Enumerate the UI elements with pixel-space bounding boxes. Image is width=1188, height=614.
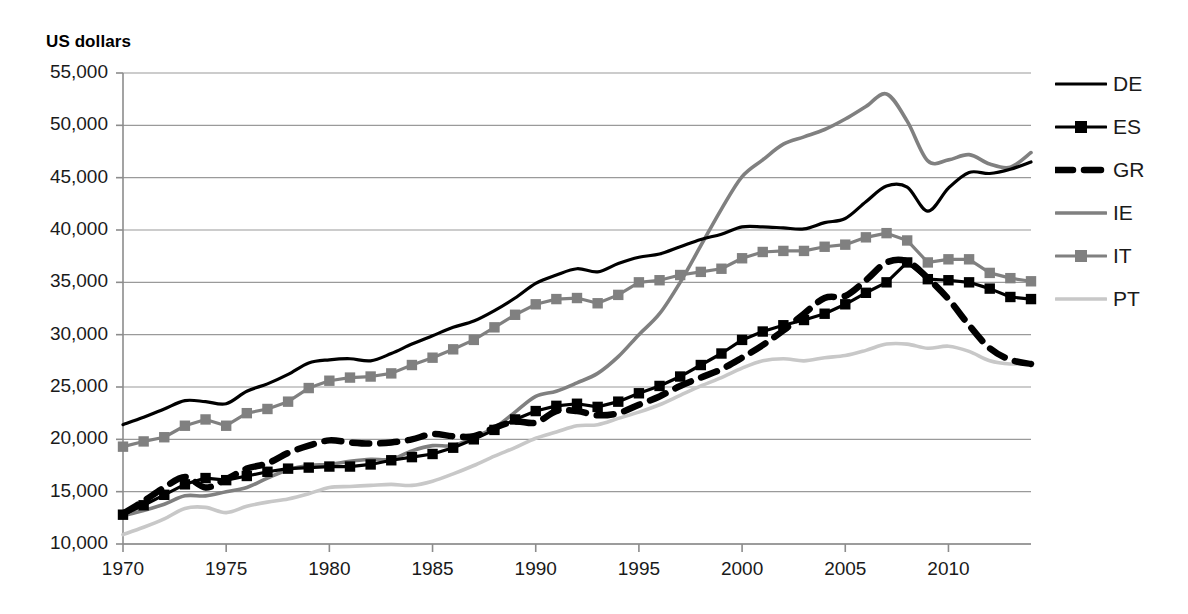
marker-it bbox=[840, 239, 850, 249]
marker-es bbox=[365, 459, 375, 469]
marker-it bbox=[613, 290, 623, 300]
marker-es bbox=[304, 462, 314, 472]
marker-es bbox=[531, 406, 541, 416]
marker-es bbox=[840, 299, 850, 309]
marker-es bbox=[737, 335, 747, 345]
marker-es bbox=[427, 449, 437, 459]
marker-es bbox=[716, 348, 726, 358]
y-tick-label: 10,000 bbox=[18, 532, 108, 554]
marker-es bbox=[758, 326, 768, 336]
marker-it bbox=[489, 322, 499, 332]
legend-item-it[interactable]: IT bbox=[1055, 234, 1185, 277]
y-tick-label: 20,000 bbox=[18, 427, 108, 449]
marker-it bbox=[985, 268, 995, 278]
marker-it bbox=[510, 310, 520, 320]
legend-item-pt[interactable]: PT bbox=[1055, 277, 1185, 320]
y-tick-label: 35,000 bbox=[18, 270, 108, 292]
legend-label-ie: IE bbox=[1113, 202, 1133, 223]
marker-es bbox=[1005, 292, 1015, 302]
marker-es bbox=[964, 277, 974, 287]
marker-es bbox=[654, 381, 664, 391]
y-tick-label: 15,000 bbox=[18, 480, 108, 502]
x-tick-label: 2010 bbox=[908, 558, 988, 580]
x-tick-label: 1975 bbox=[186, 558, 266, 580]
marker-es bbox=[861, 288, 871, 298]
marker-it bbox=[118, 441, 128, 451]
marker-it bbox=[427, 352, 437, 362]
marker-it bbox=[1026, 276, 1036, 286]
marker-it bbox=[551, 294, 561, 304]
marker-es bbox=[943, 275, 953, 285]
legend-swatch-pt bbox=[1055, 289, 1107, 309]
marker-it bbox=[902, 235, 912, 245]
marker-it bbox=[923, 257, 933, 267]
marker-it bbox=[675, 270, 685, 280]
marker-it bbox=[531, 299, 541, 309]
legend-item-es[interactable]: ES bbox=[1055, 105, 1185, 148]
marker-es bbox=[881, 277, 891, 287]
marker-it bbox=[365, 371, 375, 381]
legend-swatch-es bbox=[1055, 117, 1107, 137]
marker-it bbox=[592, 298, 602, 308]
marker-it bbox=[469, 335, 479, 345]
marker-it bbox=[221, 421, 231, 431]
plot-area bbox=[0, 0, 1188, 614]
marker-it bbox=[758, 247, 768, 257]
marker-it bbox=[180, 421, 190, 431]
marker-it bbox=[1005, 273, 1015, 283]
marker-es bbox=[1026, 294, 1036, 304]
marker-es bbox=[200, 473, 210, 483]
legend-swatch-ie bbox=[1055, 203, 1107, 223]
marker-it bbox=[654, 275, 664, 285]
y-tick-label: 50,000 bbox=[18, 113, 108, 135]
y-tick-label: 25,000 bbox=[18, 375, 108, 397]
x-tick-label: 1990 bbox=[496, 558, 576, 580]
marker-it bbox=[386, 368, 396, 378]
marker-es bbox=[819, 309, 829, 319]
marker-es bbox=[324, 461, 334, 471]
marker-es bbox=[242, 471, 252, 481]
marker-it bbox=[345, 372, 355, 382]
x-tick-label: 2000 bbox=[702, 558, 782, 580]
marker-es bbox=[283, 463, 293, 473]
series-line-ie bbox=[123, 94, 1031, 516]
marker-it bbox=[324, 376, 334, 386]
marker-it bbox=[448, 344, 458, 354]
marker-es bbox=[262, 467, 272, 477]
marker-it bbox=[242, 408, 252, 418]
marker-it bbox=[737, 253, 747, 263]
marker-it bbox=[262, 404, 272, 414]
marker-it bbox=[634, 277, 644, 287]
y-tick-label: 40,000 bbox=[18, 218, 108, 240]
legend-label-de: DE bbox=[1113, 73, 1142, 94]
legend-label-it: IT bbox=[1113, 245, 1132, 266]
marker-es bbox=[386, 455, 396, 465]
marker-it bbox=[881, 228, 891, 238]
legend-item-ie[interactable]: IE bbox=[1055, 191, 1185, 234]
legend-item-de[interactable]: DE bbox=[1055, 62, 1185, 105]
marker-it bbox=[778, 246, 788, 256]
marker-es bbox=[634, 388, 644, 398]
marker-it bbox=[138, 436, 148, 446]
x-tick-label: 2005 bbox=[805, 558, 885, 580]
marker-it bbox=[304, 383, 314, 393]
marker-it bbox=[716, 264, 726, 274]
legend-item-gr[interactable]: GR bbox=[1055, 148, 1185, 191]
marker-es bbox=[696, 360, 706, 370]
legend-swatch-gr bbox=[1055, 160, 1107, 180]
marker-es bbox=[592, 402, 602, 412]
line-chart: US dollars 10,00015,00020,00025,00030,00… bbox=[0, 0, 1188, 614]
marker-it bbox=[943, 254, 953, 264]
marker-it bbox=[861, 232, 871, 242]
y-tick-label: 30,000 bbox=[18, 323, 108, 345]
marker-es bbox=[345, 461, 355, 471]
marker-es bbox=[985, 283, 995, 293]
marker-es bbox=[407, 452, 417, 462]
legend-label-pt: PT bbox=[1113, 288, 1140, 309]
marker-es bbox=[448, 443, 458, 453]
marker-it bbox=[407, 360, 417, 370]
marker-es bbox=[572, 399, 582, 409]
marker-es bbox=[613, 396, 623, 406]
legend-label-gr: GR bbox=[1113, 159, 1145, 180]
marker-it bbox=[200, 414, 210, 424]
